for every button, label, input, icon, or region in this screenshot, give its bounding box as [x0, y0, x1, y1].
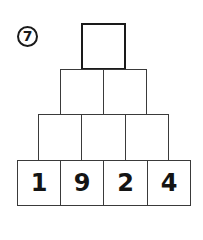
- pyramid-cell-r4-c1: 1: [17, 160, 61, 206]
- pyramid-cell-r2-c2[interactable]: [103, 69, 147, 115]
- pyramid-cell-r2-c1[interactable]: [60, 69, 104, 115]
- pyramid-cell-r4-c2: 9: [60, 160, 104, 206]
- pyramid-cell-r4-c3: 2: [103, 160, 148, 206]
- problem-number-badge: 7: [17, 26, 38, 47]
- pyramid-cell-r4-c4: 4: [147, 160, 191, 206]
- pyramid-cell-r3-c3[interactable]: [125, 114, 169, 161]
- pyramid-cell-r3-c2[interactable]: [81, 114, 126, 161]
- pyramid-cell-r3-c1[interactable]: [38, 114, 82, 161]
- pyramid-cell-top-answer[interactable]: [81, 23, 126, 70]
